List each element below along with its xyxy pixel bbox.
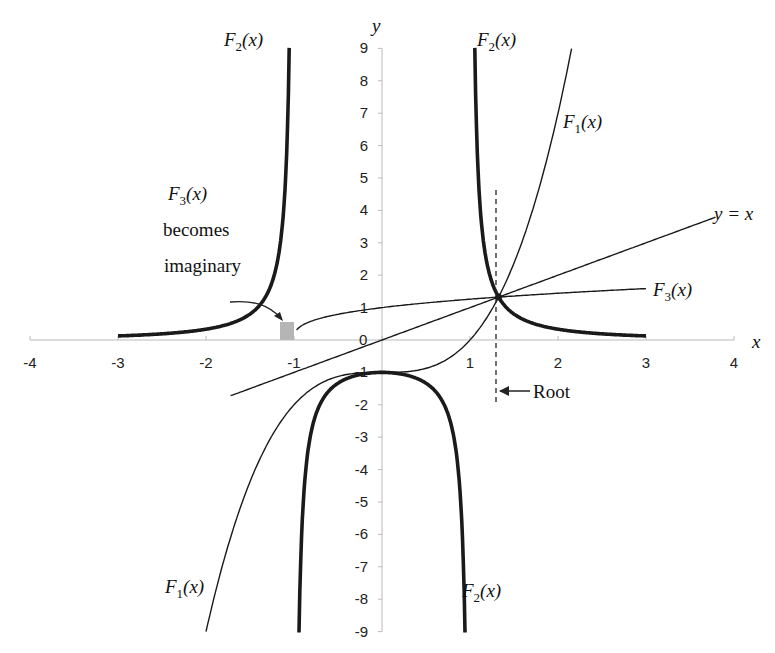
x-tick-label: 4	[730, 354, 738, 371]
y-tick-label: 5	[360, 169, 368, 186]
y-tick-label: 2	[360, 266, 368, 283]
y-tick-label: 7	[360, 104, 368, 121]
f1-top-label: F1(x)	[562, 111, 602, 136]
x-tick-label: -2	[199, 354, 212, 371]
y-axis-label: y	[370, 15, 381, 36]
x-tick-label: -3	[111, 354, 124, 371]
y-tick-label: 6	[360, 137, 368, 154]
x-tick-label: -1	[287, 354, 300, 371]
y-tick-label: 9	[360, 39, 368, 56]
chart-canvas: -4-3-2-11234-9-8-7-6-5-4-3-2-1123456789 …	[0, 0, 775, 653]
tick-labels: -4-3-2-11234-9-8-7-6-5-4-3-2-1123456789	[23, 39, 738, 639]
y-tick-label: 8	[360, 72, 368, 89]
imaginary-region-box	[280, 322, 294, 340]
f3-note-label: F3(x)	[167, 183, 207, 208]
y-tick-label: -7	[355, 558, 368, 575]
f2-right-top-label: F2(x)	[476, 29, 516, 54]
root-arrowhead-icon	[499, 386, 509, 396]
f3-right-label: F3(x)	[652, 279, 692, 304]
f2-bottom-label: F2(x)	[461, 580, 501, 605]
y-tick-label: -3	[355, 428, 368, 445]
x-axis-label: x	[751, 331, 761, 352]
f2-left-label: F2(x)	[223, 29, 263, 54]
curve-f3x	[297, 289, 646, 330]
f1-bottom-label: F1(x)	[164, 576, 204, 601]
y-tick-label: 1	[360, 299, 368, 316]
y-tick-label: -4	[355, 461, 368, 478]
x-tick-label: 3	[642, 354, 650, 371]
f3-note-imaginary: imaginary	[164, 255, 242, 276]
y-tick-label: -2	[355, 396, 368, 413]
root-label: Root	[533, 381, 571, 402]
y-tick-label: -6	[355, 525, 368, 542]
yx-label: y = x	[712, 203, 754, 224]
y-tick-label: -8	[355, 590, 368, 607]
x-tick-label: 1	[466, 354, 474, 371]
origin-label: 0	[359, 331, 367, 348]
y-tick-label: -5	[355, 493, 368, 510]
y-tick-label: 4	[360, 201, 368, 218]
f3-note-becomes: becomes	[163, 219, 229, 240]
y-tick-label: -9	[355, 623, 368, 640]
x-tick-label: -4	[23, 354, 36, 371]
x-tick-label: 2	[554, 354, 562, 371]
y-tick-label: 3	[360, 234, 368, 251]
